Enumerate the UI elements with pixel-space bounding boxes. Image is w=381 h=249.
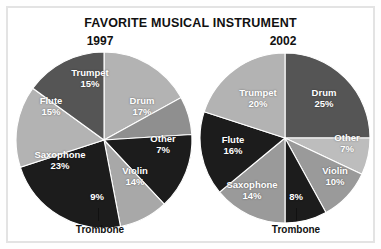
slice-value-other-2002: 7% [322, 144, 372, 155]
year-label-1997: 1997 [60, 34, 140, 48]
year-label-2002: 2002 [243, 34, 323, 48]
slice-label-other-1997: Other 7% [138, 134, 188, 155]
slice-value-drum-2002: 25% [296, 99, 352, 110]
leader-line-trombone-2002 [296, 208, 297, 221]
slice-label-drum-2002: Drum 25% [296, 88, 352, 109]
slice-value-violin-2002: 10% [308, 177, 362, 188]
slice-value-saxophone-2002: 14% [210, 191, 294, 202]
slice-value-flute-2002: 16% [204, 146, 262, 157]
slice-label-saxophone-1997: Saxophone 23% [18, 150, 102, 171]
pie-chart-figure: FAVORITE MUSICAL INSTRUMENT 1997 2002 Tr… [0, 0, 381, 249]
slice-label-trombone-1997: 9% [76, 192, 118, 203]
slice-value-trumpet-2002: 20% [224, 99, 292, 110]
slice-value-drum-1997: 17% [112, 107, 172, 118]
slice-label-trumpet-2002: Trumpet 20% [224, 88, 292, 109]
slice-label-drum-1997: Drum 17% [112, 96, 172, 117]
slice-label-trumpet-1997: Trumpet 15% [55, 68, 125, 89]
slice-label-violin-2002: Violin 10% [308, 166, 362, 187]
slice-value-saxophone-1997: 23% [18, 161, 102, 172]
slice-value-violin-1997: 14% [108, 177, 162, 188]
slice-label-saxophone-2002: Saxophone 14% [210, 180, 294, 201]
callout-trombone-1997: Trombone [58, 224, 142, 235]
slice-label-other-2002: Other 7% [322, 133, 372, 154]
leader-line-trombone-1997 [98, 208, 99, 221]
slice-value-trombone-1997: 9% [76, 192, 118, 203]
callout-trombone-2002: Trombone [254, 224, 338, 235]
slice-label-violin-1997: Violin 14% [108, 166, 162, 187]
slice-label-flute-2002: Flute 16% [204, 135, 262, 156]
slice-value-trumpet-1997: 15% [55, 79, 125, 90]
slice-label-flute-1997: Flute 15% [22, 96, 80, 117]
page-title: FAVORITE MUSICAL INSTRUMENT [0, 16, 381, 30]
slice-value-other-1997: 7% [138, 145, 188, 156]
slice-value-flute-1997: 15% [22, 107, 80, 118]
